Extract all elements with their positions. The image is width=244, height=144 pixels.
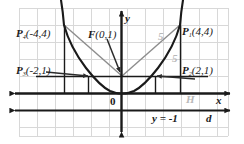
label-focus: F(0,1) bbox=[88, 28, 116, 40]
label-p2: P2(2,1) bbox=[182, 64, 213, 77]
label-p1-name: P bbox=[182, 25, 189, 37]
distance-label-lower: 5 bbox=[172, 52, 178, 64]
distance-label-upper: 5 bbox=[158, 30, 164, 42]
origin-label: 0 bbox=[110, 95, 116, 107]
label-p2-coords: (2,1) bbox=[192, 64, 213, 76]
label-p3-name: P bbox=[16, 64, 23, 76]
label-p4-name: P bbox=[16, 27, 23, 39]
leader-f bbox=[107, 39, 120, 72]
label-focus-coords: (0,1) bbox=[95, 28, 116, 40]
x-axis-label: x bbox=[216, 94, 222, 106]
label-p1: P1(4,4) bbox=[182, 25, 213, 38]
label-p3-coords: (-2,1) bbox=[26, 64, 51, 76]
focal-ray-p1 bbox=[122, 25, 180, 76]
label-p4-coords: (-4,4) bbox=[26, 27, 51, 39]
h-line-label: H bbox=[186, 93, 195, 105]
y-axis-label: y bbox=[125, 12, 130, 24]
directrix-name-label: d bbox=[206, 112, 212, 124]
parabola-figure: P4(-4,4) P3(-2,1) P1(4,4) P2(2,1) F(0,1)… bbox=[0, 0, 244, 144]
label-p1-coords: (4,4) bbox=[192, 25, 213, 37]
directrix-equation-label: y = -1 bbox=[152, 112, 178, 124]
label-p4: P4(-4,4) bbox=[16, 27, 50, 40]
leader-p3 bbox=[46, 72, 88, 76]
label-p3: P3(-2,1) bbox=[16, 64, 50, 77]
label-p2-name: P bbox=[182, 64, 189, 76]
